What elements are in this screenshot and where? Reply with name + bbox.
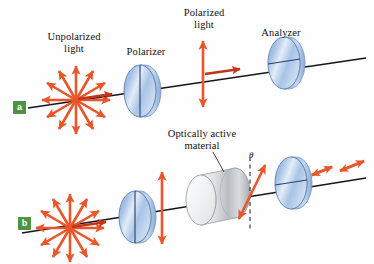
panel-b-group xyxy=(22,152,366,262)
material-cylinder-front-face xyxy=(186,175,216,225)
theta-symbol: θ xyxy=(249,150,253,160)
polarizer-label: Polarizer xyxy=(112,46,180,58)
panel-a-unpolarized-burst xyxy=(42,66,110,134)
analyzer-label: Analyzer xyxy=(247,27,315,39)
polarized-light-label: Polarized light xyxy=(168,7,240,31)
analyzer-disc-b xyxy=(275,157,312,209)
optically-active-material-label: Optically active material xyxy=(150,128,254,152)
unpolarized-light-label: Unpolarized light xyxy=(28,31,120,55)
panel-b-unpolarized-burst xyxy=(36,194,104,262)
output-arrow-1 xyxy=(312,167,332,175)
output-arrow-2 xyxy=(340,161,364,171)
panel-badge-a: a xyxy=(13,101,26,114)
polarization-figure: Unpolarized light Polarizer Polarized li… xyxy=(0,0,374,264)
panel-badge-b: b xyxy=(18,217,31,230)
panel-a-transmitted-direction-arrow xyxy=(205,69,240,74)
material-label-leader-line xyxy=(213,152,224,172)
analyzer-disc-a xyxy=(268,37,305,89)
polarizer-disc-a xyxy=(124,65,161,117)
polarizer-disc-b xyxy=(119,191,156,243)
